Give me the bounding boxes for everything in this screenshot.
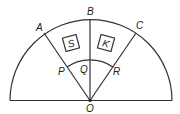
label-R: R (113, 66, 120, 77)
label-C: C (136, 20, 144, 31)
label-P: P (58, 66, 65, 77)
semicircle-diagram: S K A B C P Q R O (0, 0, 180, 114)
square-S: S (62, 34, 79, 51)
label-K: K (101, 37, 112, 50)
label-B: B (87, 6, 94, 17)
label-S: S (66, 37, 76, 49)
label-A: A (35, 22, 43, 33)
center-point (88, 99, 91, 102)
label-O: O (86, 103, 94, 114)
square-K: K (97, 34, 114, 51)
label-Q: Q (80, 64, 88, 75)
